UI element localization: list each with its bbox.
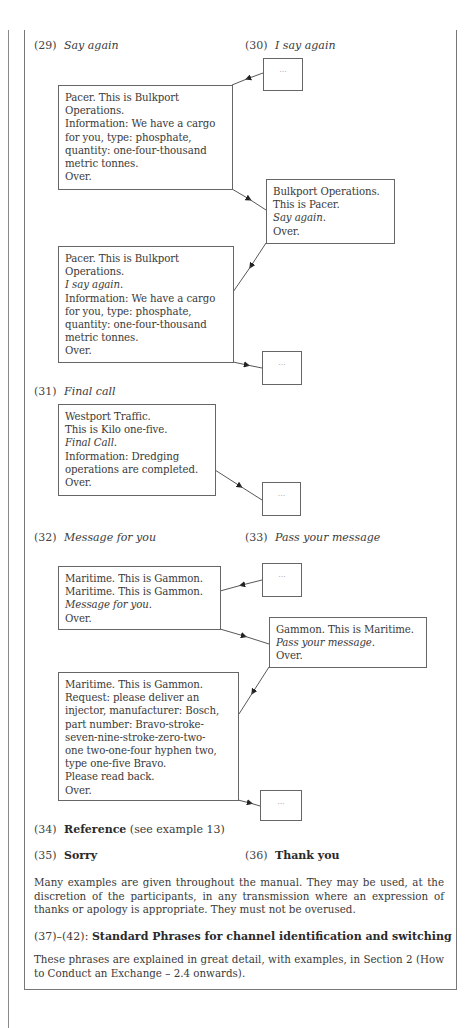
heading-i-say-again: (30)I say again	[245, 39, 336, 52]
ellipsis-box: ···	[260, 790, 302, 821]
ellipsis-box: ···	[263, 58, 303, 91]
dialog-box-pass-your-message: Gammon. This is Maritime. Pass your mess…	[269, 617, 427, 668]
thanks-apology-paragraph: Many examples are given throughout the m…	[34, 876, 444, 917]
dialog-box-say-again-2: Bulkport Operations. This is Pacer. Say …	[266, 179, 395, 244]
heading-reference: (34)Reference (see example 13)	[34, 823, 225, 836]
ellipsis-box: ···	[262, 563, 302, 597]
ellipsis-box: ···	[262, 482, 301, 516]
dialog-box-say-again-1: Pacer. This is Bulkport Operations. Info…	[58, 85, 233, 190]
ellipsis-box: ···	[262, 351, 302, 385]
heading-sorry: (35)Sorry	[34, 849, 97, 862]
dialog-box-say-again-3: Pacer. This is Bulkport Operations. I sa…	[58, 246, 234, 363]
channel-phrases-paragraph: These phrases are explained in great det…	[34, 953, 444, 980]
heading-thank-you: (36)Thank you	[245, 849, 340, 862]
dialog-box-request-message: Maritime. This is Gammon. Request: pleas…	[58, 672, 239, 801]
heading-channel-phrases: (37)–(42): Standard Phrases for channel …	[34, 930, 452, 943]
heading-message-for-you: (32)Message for you	[34, 531, 156, 544]
heading-final-call: (31)Final call	[34, 385, 116, 398]
heading-say-again: (29)Say again	[34, 39, 119, 52]
dialog-box-message-for-you: Maritime. This is Gammon. Maritime. This…	[58, 566, 221, 630]
dialog-box-final-call: Westport Traffic. This is Kilo one-five.…	[58, 404, 216, 496]
heading-pass-your-message: (33)Pass your message	[245, 531, 380, 544]
